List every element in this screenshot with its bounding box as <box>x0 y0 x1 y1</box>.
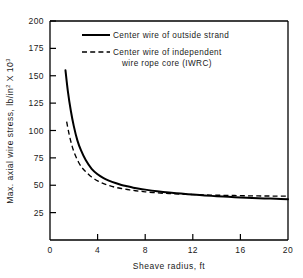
x-tick-label: 0 <box>47 245 52 255</box>
y-axis-ticks: 255075100125150175200 <box>29 16 56 218</box>
x-tick-label: 4 <box>95 245 100 255</box>
chart-figure: 255075100125150175200 048121620 Center w… <box>0 0 303 278</box>
y-tick-label: 75 <box>34 153 44 163</box>
y-tick-label: 200 <box>29 16 44 26</box>
y-tick-label: 125 <box>29 98 44 108</box>
x-axis-ticks: 048121620 <box>47 234 293 255</box>
y-axis-title-main: Max. axial wire stress, lb/in <box>5 88 15 204</box>
y-tick-label: 175 <box>29 43 44 53</box>
y-tick-label: 150 <box>29 71 44 81</box>
data-series-group <box>65 70 288 199</box>
y-tick-label: 25 <box>34 208 44 218</box>
x-tick-label: 8 <box>143 245 148 255</box>
legend-label-1-line2: wire rope core (IWRC) <box>121 59 212 68</box>
x-tick-label: 20 <box>283 245 293 255</box>
y-tick-label: 50 <box>34 180 44 190</box>
line-chart: 255075100125150175200 048121620 Center w… <box>0 0 303 278</box>
y-tick-label: 100 <box>29 126 44 136</box>
y-axis-title: Max. axial wire stress, lb/in2 X 103 <box>5 58 15 204</box>
y-axis-title-mid: X 10 <box>5 62 15 84</box>
x-axis-title: Sheave radius, ft <box>133 261 205 271</box>
series-line-outside-strand <box>65 70 288 199</box>
legend: Center wire of outside strand Center wir… <box>82 31 229 68</box>
x-tick-label: 12 <box>188 245 198 255</box>
legend-label-1-line1: Center wire of independent <box>113 48 222 57</box>
series-line-iwrc <box>67 122 288 196</box>
x-tick-label: 16 <box>235 245 245 255</box>
y-axis-title-sup2: 3 <box>5 58 11 62</box>
svg-text:Max. axial wire stress, lb/in2: Max. axial wire stress, lb/in2 X 103 <box>5 58 15 204</box>
legend-label-0: Center wire of outside strand <box>113 31 229 40</box>
